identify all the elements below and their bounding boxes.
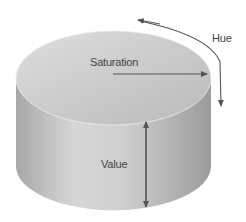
saturation-label: Saturation xyxy=(90,56,138,68)
cylinder-top xyxy=(16,31,211,125)
hsv-cylinder-diagram xyxy=(0,0,246,222)
value-label: Value xyxy=(101,158,127,170)
hue-label: Hue xyxy=(212,32,232,44)
